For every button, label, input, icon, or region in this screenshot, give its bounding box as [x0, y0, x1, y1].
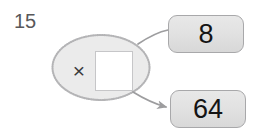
- output-connector-line: [133, 92, 166, 107]
- answer-input-box[interactable]: [95, 51, 133, 91]
- value-box-bottom[interactable]: 64: [170, 90, 246, 128]
- input-connector-line: [138, 30, 168, 44]
- question-number: 15: [14, 11, 36, 31]
- value-box-top[interactable]: 8: [168, 15, 244, 53]
- worksheet-diagram: 15 × 8 64: [0, 0, 259, 138]
- multiply-operator-icon: ×: [66, 58, 92, 84]
